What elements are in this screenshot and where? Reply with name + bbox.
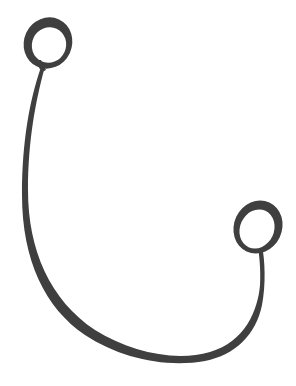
ribbon-curve — [22, 70, 265, 363]
illustration-canvas: curved ribbon with two loops — [0, 0, 296, 386]
ribbon-illustration — [0, 0, 296, 386]
right-loop — [225, 192, 291, 261]
top-left-loop — [15, 9, 80, 76]
